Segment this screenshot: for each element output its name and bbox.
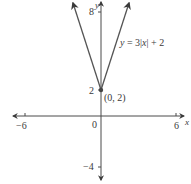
y-axis-label: y: [94, 0, 99, 10]
x-axis-label: x: [184, 117, 189, 127]
tick-label-y-2: 2: [89, 85, 94, 96]
tick-label-x-6: 6: [174, 120, 179, 131]
tick-label-y-neg4: −4: [83, 161, 94, 172]
absolute-value-graph: y 8 2 −4 (0, 2) 0 −6 6 x y = 3|x| + 2: [0, 0, 191, 184]
point-label: (0, 2): [104, 92, 126, 104]
origin-label: 0: [92, 119, 97, 130]
equation-label: y = 3|x| + 2: [119, 37, 164, 48]
tick-label-y-8: 8: [89, 6, 94, 17]
curve-left-branch: [73, 3, 101, 90]
tick-label-x-neg6: −6: [16, 120, 27, 131]
equation-tail: | + 2: [147, 37, 165, 48]
vertex-point: [99, 88, 103, 92]
equation-eq: = 3|: [124, 37, 142, 48]
